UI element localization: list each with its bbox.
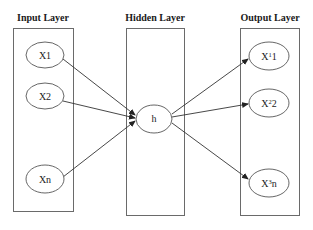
hidden-node-h-label: h <box>152 113 157 124</box>
input-node-xn: Xn <box>26 165 64 193</box>
input-layer-title: Input Layer <box>17 12 70 23</box>
output-node-x22: X22 <box>249 89 289 117</box>
output-layer-title: Output Layer <box>240 12 300 23</box>
neural-network-diagram: Input Layer Hidden Layer Output Layer X1… <box>0 0 313 230</box>
input-node-x1-label: X1 <box>39 50 51 61</box>
input-node-x2: X2 <box>26 83 64 109</box>
output-node-x11: X11 <box>249 42 289 70</box>
hidden-layer-title: Hidden Layer <box>125 12 185 23</box>
hidden-node-h: h <box>136 105 172 133</box>
input-node-x2-label: X2 <box>39 91 51 102</box>
edge-h-x3n <box>172 123 248 179</box>
input-node-xn-label: Xn <box>39 174 51 185</box>
output-node-x3n: X3n <box>249 169 289 197</box>
input-node-x1: X1 <box>26 42 64 68</box>
